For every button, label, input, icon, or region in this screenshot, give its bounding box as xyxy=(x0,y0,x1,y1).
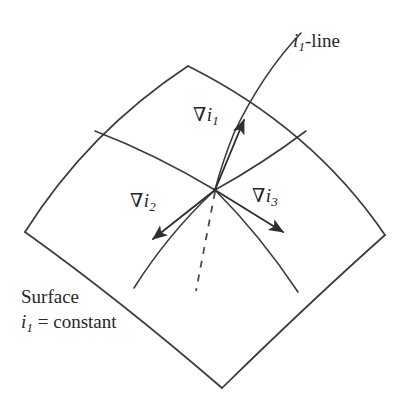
label-i1-line: i1-line xyxy=(293,30,340,55)
i1-line-symbol: i xyxy=(293,30,298,51)
surface-grid-curves xyxy=(95,131,306,292)
i1-line-curve xyxy=(215,33,301,190)
nabla-icon-3: ∇ xyxy=(252,185,265,206)
caption-equation-rest: = constant xyxy=(33,311,117,332)
label-grad-i2: ∇i2 xyxy=(130,190,156,215)
i1-line-suffix: -line xyxy=(305,30,340,51)
patch-edge-lower-right xyxy=(222,235,385,388)
label-grad-i3: ∇i3 xyxy=(252,185,278,210)
figure-root: i1-line ∇i1 ∇i2 ∇i3 Surface i1 = constan… xyxy=(0,0,406,414)
caption-surface: Surface i1 = constant xyxy=(21,286,117,336)
patch-edge-upper-right xyxy=(188,66,385,235)
center-node xyxy=(213,188,217,192)
surface-gradient-diagram xyxy=(0,0,406,414)
label-grad-i1: ∇i1 xyxy=(193,104,219,129)
patch-edge-upper-left xyxy=(25,66,188,232)
grid-curve-right xyxy=(215,131,306,190)
grad-i1-arrow xyxy=(215,120,244,190)
grad-i2-arrow xyxy=(153,190,215,239)
caption-line-2: i1 = constant xyxy=(21,311,117,336)
grad-i1-subscript: 1 xyxy=(212,113,218,128)
nabla-icon-2: ∇ xyxy=(130,190,143,211)
caption-line-1: Surface xyxy=(21,286,79,307)
nabla-icon-1: ∇ xyxy=(193,104,206,125)
grad-i2-subscript: 2 xyxy=(149,199,155,214)
grad-i3-subscript: 3 xyxy=(271,194,277,209)
caption-symbol: i xyxy=(21,311,26,332)
grid-curve-left xyxy=(95,131,215,190)
